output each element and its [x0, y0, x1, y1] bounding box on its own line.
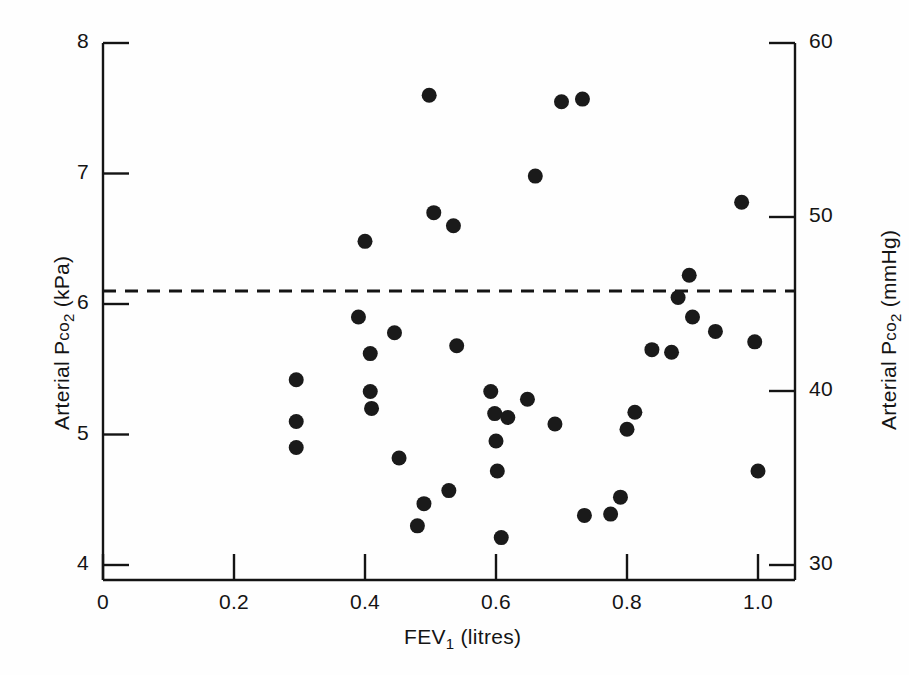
data-point [734, 195, 749, 210]
data-point [410, 518, 425, 533]
y2-axis-title-subscript: 2 [887, 313, 904, 322]
y-axis-title-right: Arterial Pco2 (mmHg) [877, 230, 901, 430]
y-tick-label-3: 7 [77, 160, 89, 184]
data-point [392, 450, 407, 465]
data-point [487, 406, 502, 421]
data-point [289, 372, 304, 387]
data-point [358, 234, 373, 249]
data-point [364, 401, 379, 416]
y2-axis-title-co: co [881, 322, 900, 341]
data-point [520, 392, 535, 407]
data-point [554, 94, 569, 109]
y-axis-title-prefix: Arterial P [50, 341, 73, 430]
x-tick-label-0: 0 [97, 590, 109, 614]
data-points [289, 88, 766, 545]
data-point [664, 345, 679, 360]
data-point [644, 342, 659, 357]
y2-tick-label-3: 60 [809, 29, 833, 53]
x-axis-title: FEV1 (litres) [404, 625, 521, 649]
y-tick-label-4: 8 [77, 29, 89, 53]
data-point [387, 325, 402, 340]
data-point [747, 334, 762, 349]
data-point [426, 205, 441, 220]
data-point [351, 310, 366, 325]
y-axis-title-subscript: 2 [60, 313, 77, 322]
data-point [483, 384, 498, 399]
data-point [627, 405, 642, 420]
y2-tick-label-1: 40 [809, 377, 833, 401]
x-tick-label-4: 0.8 [612, 590, 642, 614]
data-point [289, 414, 304, 429]
x-axis-title-subscript: 1 [446, 635, 455, 652]
data-point [441, 483, 456, 498]
data-point [449, 338, 464, 353]
data-point [489, 434, 504, 449]
figure-container: 00.20.40.60.81.0 45678 30405060 FEV1 (li… [0, 0, 909, 675]
y-axis-title-co: co [54, 322, 73, 341]
data-point [289, 440, 304, 455]
scatter-plot-canvas [0, 0, 909, 675]
y2-axis-title-prefix: Arterial P [877, 341, 900, 430]
data-point [494, 530, 509, 545]
data-point [613, 490, 628, 505]
x-tick-label-1: 0.2 [219, 590, 249, 614]
y2-axis-title-unit: (mmHg) [877, 230, 900, 314]
data-point [416, 496, 431, 511]
data-point [671, 290, 686, 305]
x-axis-title-main: FEV [404, 625, 446, 648]
y-axis-title-unit: (kPa) [50, 256, 73, 314]
x-tick-label-5: 1.0 [743, 590, 773, 614]
data-point [363, 346, 378, 361]
x-tick-label-3: 0.6 [481, 590, 511, 614]
data-point [708, 324, 723, 339]
x-tick-label-2: 0.4 [350, 590, 380, 614]
data-point [446, 218, 461, 233]
data-point [422, 88, 437, 103]
data-point [575, 92, 590, 107]
y2-tick-label-2: 50 [809, 203, 833, 227]
x-axis-title-unit: (litres) [454, 625, 521, 648]
data-point [577, 508, 592, 523]
data-point [528, 169, 543, 184]
y-axis-title-left: Arterial Pco2 (kPa) [50, 256, 74, 430]
data-point [620, 422, 635, 437]
data-point [685, 310, 700, 325]
data-point [490, 464, 505, 479]
data-point [682, 268, 697, 283]
y-tick-label-0: 4 [77, 551, 89, 575]
data-point [603, 507, 618, 522]
data-point [500, 410, 515, 425]
data-point [363, 384, 378, 399]
y-tick-label-2: 6 [77, 290, 89, 314]
y2-tick-label-0: 30 [809, 551, 833, 575]
y-tick-label-1: 5 [77, 421, 89, 445]
data-point [547, 417, 562, 432]
data-point [751, 464, 766, 479]
